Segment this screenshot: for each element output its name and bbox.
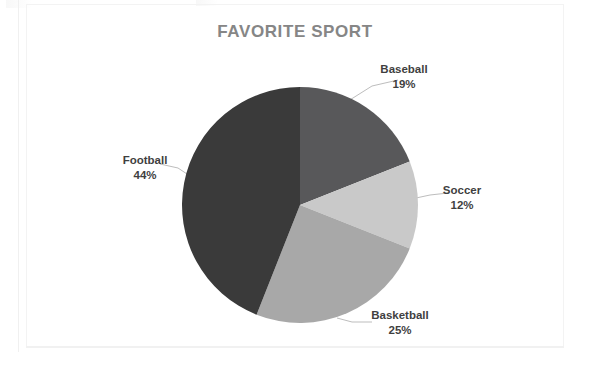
- pie-slices: [182, 87, 418, 323]
- slice-label-baseball-name: Baseball: [380, 63, 427, 75]
- slice-label-soccer: Soccer 12%: [410, 183, 514, 213]
- slice-label-football-value: 44%: [90, 168, 200, 183]
- slice-label-baseball: Baseball 19%: [352, 62, 456, 92]
- slice-label-soccer-value: 12%: [410, 198, 514, 213]
- slice-label-basketball: Basketball 25%: [340, 308, 460, 338]
- slice-label-soccer-name: Soccer: [443, 184, 481, 196]
- chart-page: FAVORITE SPORT Baseball 19% Soccer 12% B…: [0, 0, 590, 371]
- slice-label-baseball-value: 19%: [352, 77, 456, 92]
- slice-label-basketball-value: 25%: [340, 323, 460, 338]
- slice-label-football: Football 44%: [90, 153, 200, 183]
- slice-label-basketball-name: Basketball: [371, 309, 429, 321]
- slice-label-football-name: Football: [123, 154, 168, 166]
